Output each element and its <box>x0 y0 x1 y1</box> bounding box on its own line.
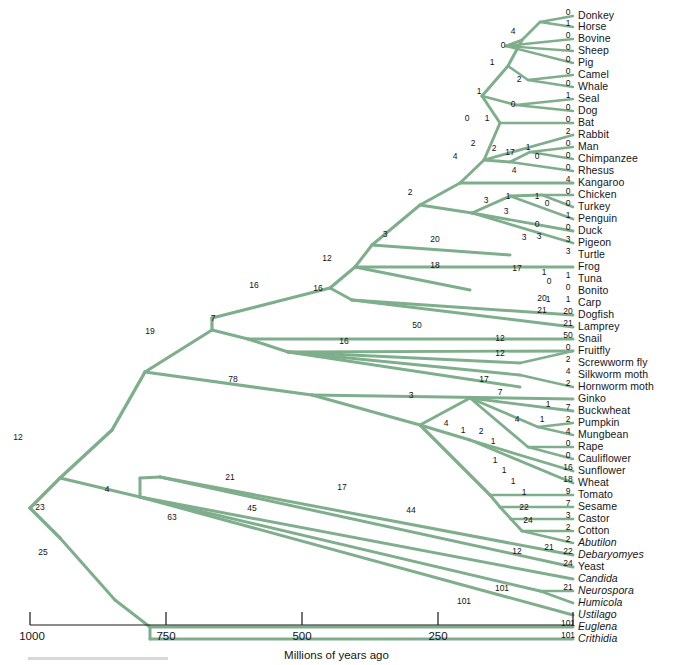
tip-label: Dog <box>578 105 598 115</box>
tree-branch <box>482 66 508 96</box>
axis-line <box>0 608 673 630</box>
tip-label: Rabbit <box>578 129 609 139</box>
tree-branch <box>288 352 520 375</box>
tip-change-number: 2 <box>566 415 571 423</box>
tree-branch <box>140 477 160 478</box>
tip-label: Hornworm moth <box>578 381 654 391</box>
branch-change-number: 1 <box>535 192 540 200</box>
tree-branch <box>516 105 573 111</box>
tree-branch <box>490 495 500 507</box>
branch-change-number: 2 <box>517 75 522 83</box>
tip-change-number: 2 <box>566 523 571 531</box>
branch-change-number: 1 <box>511 477 516 485</box>
tip-change-number: 0 <box>566 8 571 16</box>
tip-change-number: 2 <box>566 355 571 363</box>
tip-label: Bovine <box>578 33 611 43</box>
tree-branch <box>330 288 352 300</box>
tree-branch <box>160 477 573 567</box>
tip-label: Chicken <box>578 189 617 199</box>
branch-change-number: 1 <box>493 456 498 464</box>
tip-label: Rhesus <box>578 165 614 175</box>
tip-label: Dogfish <box>578 309 614 319</box>
branch-change-number: 50 <box>412 321 421 329</box>
branch-change-number: 45 <box>247 504 256 512</box>
tip-change-number: 0 <box>566 199 571 207</box>
tip-label: Pumpkin <box>578 417 620 427</box>
branch-change-number: 12 <box>495 334 504 342</box>
tip-label: Tuna <box>578 273 602 283</box>
branch-change-number: 21 <box>225 473 234 481</box>
tip-change-number: 0 <box>566 439 571 447</box>
tip-change-number: 18 <box>563 475 572 483</box>
branch-change-number: 2 <box>471 139 476 147</box>
tip-change-number: 1 <box>566 91 571 99</box>
tree-branch <box>145 330 212 372</box>
tip-change-number: 16 <box>563 463 572 471</box>
branch-change-number: 0 <box>545 199 550 207</box>
tree-branch <box>60 430 112 478</box>
tip-change-number: 0 <box>566 163 571 171</box>
tip-label: Kangaroo <box>578 177 624 187</box>
tip-label: Fruitfly <box>578 345 610 355</box>
branch-change-number: 12 <box>495 349 504 357</box>
tip-change-number: 21 <box>563 319 572 327</box>
branch-change-number: 1 <box>546 400 551 408</box>
tip-change-number: 0 <box>566 43 571 51</box>
tip-label: Buckwheat <box>578 405 630 415</box>
tip-change-number: 0 <box>566 55 571 63</box>
branch-change-number: 12 <box>322 254 331 262</box>
tip-label: Man <box>578 141 599 151</box>
branch-change-number: 23 <box>35 503 44 511</box>
tree-branch <box>510 162 573 171</box>
tip-label: Lamprey <box>578 321 620 331</box>
tip-change-number: 21 <box>563 583 572 591</box>
tree-branch <box>522 22 540 40</box>
tip-change-number: 7 <box>566 403 571 411</box>
tip-change-number: 1 <box>566 19 571 27</box>
branch-change-number: 12 <box>512 547 521 555</box>
tip-label: Tomato <box>578 489 613 499</box>
branch-change-number: 3 <box>522 233 527 241</box>
tree-branch <box>248 339 288 352</box>
branch-change-number: 0 <box>535 152 540 160</box>
tip-change-number: 20 <box>563 307 572 315</box>
tip-label: Frog <box>578 261 600 271</box>
branch-change-number: 3 <box>409 391 414 399</box>
tip-label: Donkey <box>578 10 614 20</box>
branch-change-number: 12 <box>13 433 22 441</box>
tip-change-number: 3 <box>566 235 571 243</box>
branch-change-number: 63 <box>167 513 176 521</box>
tip-change-number: 0 <box>566 115 571 123</box>
tip-change-number: 9 <box>566 487 571 495</box>
tip-change-number: 0 <box>566 139 571 147</box>
branch-change-number: 1 <box>506 192 511 200</box>
tip-change-number: 0 <box>566 31 571 39</box>
branch-change-number: 16 <box>313 284 322 292</box>
tip-label: Chimpanzee <box>578 153 638 163</box>
tip-label: Humicola <box>578 597 623 607</box>
branch-change-number: 18 <box>430 261 439 269</box>
tree-branch <box>30 508 60 538</box>
branch-change-number: 1 <box>540 415 545 423</box>
tip-label: Debaryomyes <box>578 549 644 559</box>
tip-label: Carp <box>578 297 601 307</box>
tip-label: Turtle <box>578 249 605 259</box>
tip-label: Snail <box>578 333 602 343</box>
tree-branch <box>355 245 372 267</box>
branch-change-number: 101 <box>495 584 509 592</box>
branch-change-number: 22 <box>519 503 528 511</box>
tip-change-number: 50 <box>563 331 572 339</box>
axis-tick-label: 750 <box>156 630 175 642</box>
branch-change-number: 1 <box>491 437 496 445</box>
tip-label: Silkworm moth <box>578 369 648 379</box>
tip-label: Abutilon <box>578 537 617 547</box>
tree-branch <box>511 519 522 531</box>
branch-change-number: 17 <box>337 483 346 491</box>
phylogenetic-tree-figure: DonkeyHorseBovineSheepPigCamelWhaleSealD… <box>0 0 673 665</box>
branch-change-number: 21 <box>537 306 546 314</box>
tip-label: Pig <box>578 57 593 67</box>
branch-change-number: 4 <box>444 419 449 427</box>
branch-change-number: 78 <box>228 375 237 383</box>
tip-label: Neurospora <box>578 585 634 595</box>
tip-label: Whale <box>578 81 608 91</box>
